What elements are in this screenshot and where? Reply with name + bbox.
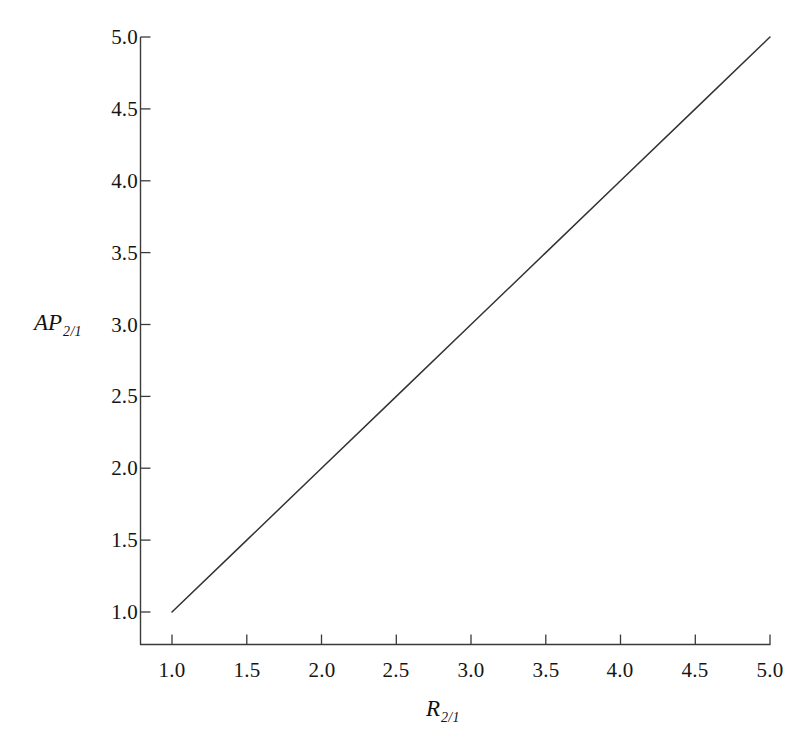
x-tick-label: 5.0 xyxy=(742,660,798,681)
y-tick-label: 3.0 xyxy=(82,315,138,336)
x-axis-title-subscript: 2/1 xyxy=(441,710,460,725)
y-tick-label: 2.5 xyxy=(82,386,138,407)
y-tick-label: 5.0 xyxy=(82,27,138,48)
y-tick-label: 4.0 xyxy=(82,171,138,192)
x-tick-label: 3.5 xyxy=(518,660,574,681)
y-tick-label: 4.5 xyxy=(82,99,138,120)
y-tick-label: 2.0 xyxy=(82,458,138,479)
x-axis-ticks xyxy=(172,635,770,645)
y-axis-ticks xyxy=(141,37,151,612)
y-axis-title-text: AP xyxy=(34,310,62,335)
y-tick-label: 1.0 xyxy=(82,602,138,623)
x-tick-label: 4.0 xyxy=(592,660,648,681)
x-tick-label: 2.5 xyxy=(368,660,424,681)
y-tick-label: 1.5 xyxy=(82,530,138,551)
x-axis-title-text: R xyxy=(426,696,440,721)
y-tick-label: 3.5 xyxy=(82,243,138,264)
x-axis-title: R2/1 xyxy=(426,697,459,720)
x-tick-label: 3.0 xyxy=(443,660,499,681)
x-tick-label: 1.5 xyxy=(219,660,275,681)
y-axis-title: AP2/1 xyxy=(34,311,81,334)
y-axis-title-subscript: 2/1 xyxy=(63,324,82,339)
data-series-line xyxy=(172,37,770,612)
x-tick-label: 2.0 xyxy=(294,660,350,681)
x-tick-label: 4.5 xyxy=(667,660,723,681)
chart-figure: 5.0 4.5 4.0 3.5 3.0 2.5 2.0 1.5 1.0 1.0 … xyxy=(0,0,812,744)
x-tick-label: 1.0 xyxy=(144,660,200,681)
